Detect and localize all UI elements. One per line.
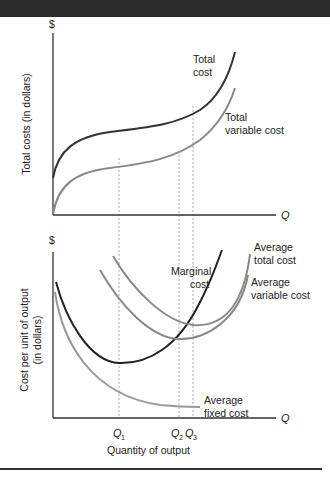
mc-label-2: cost [190,278,209,290]
avc-label-1: Average [251,276,290,288]
bottom-y-label-2: (in dollars) [31,315,43,364]
average-variable-cost-curve [100,270,248,339]
afc-label-1: Average [204,394,243,406]
svg-text:3: 3 [193,434,197,441]
afc-label-2: fixed cost [204,407,248,419]
top-y-label: Total costs (in dollars) [20,73,32,175]
x-tick-q3: Q 3 [185,427,197,441]
tvc-label-2: variable cost [225,124,284,136]
bottom-x-symbol: Q [281,412,290,424]
avc-label-2: variable cost [251,289,310,301]
top-x-symbol: Q [281,209,290,221]
x-tick-q1: Q 1 [113,427,125,441]
bottom-y-label-1: Cost per unit of output [18,288,30,391]
total-cost-label-1: Total [193,53,215,65]
top-y-symbol: $ [49,18,55,30]
mc-label-1: Marginal [171,265,211,277]
svg-text:2: 2 [179,434,183,441]
tvc-label-1: Total [225,111,247,123]
svg-text:1: 1 [121,434,125,441]
atc-label-1: Average [254,241,293,253]
cost-curves-diagram: $ Q Total costs (in dollars) Total cost … [0,0,330,484]
atc-label-2: total cost [254,254,296,266]
bottom-rule [0,468,322,470]
x-axis-label: Quantity of output [107,444,190,456]
total-variable-cost-curve [53,88,235,214]
bottom-y-symbol: $ [49,234,55,246]
x-tick-q2: Q 2 [171,427,183,441]
reference-lines [119,106,193,418]
total-cost-label-2: cost [193,66,212,78]
